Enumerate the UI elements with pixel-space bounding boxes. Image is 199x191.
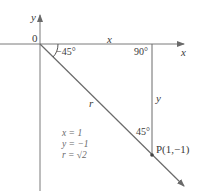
unit-circle-angle-diagram: y 0 x x −45° 90° y r 45° P(1,−1) x = 1 y… [0, 0, 199, 191]
equation-x: x = 1 [62, 128, 89, 139]
vertical-segment-label: y [156, 93, 161, 104]
horizontal-segment-label: x [107, 34, 112, 45]
origin-label: 0 [32, 33, 38, 44]
point-p-label: P(1,−1) [156, 144, 189, 155]
x-axis-label: x [181, 47, 186, 58]
right-angle-label: 90° [134, 47, 148, 57]
point-p-dot [150, 153, 154, 157]
angle-origin-label: −45° [56, 47, 76, 57]
equation-r: r = √2 [62, 150, 89, 161]
angle-point-label: 45° [136, 127, 150, 137]
diagram-lines [0, 0, 199, 191]
equations-block: x = 1 y = −1 r = √2 [62, 128, 89, 161]
equation-y: y = −1 [62, 139, 89, 150]
hypotenuse-ray [40, 44, 184, 186]
y-axis-label: y [31, 12, 36, 23]
hypotenuse-label: r [89, 98, 93, 109]
